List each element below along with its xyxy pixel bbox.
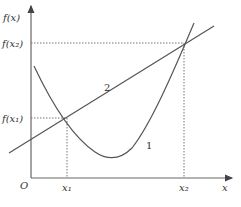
curve-2-label: 2 [104, 82, 110, 93]
y-tick-fx2: f(x₂) [1, 38, 23, 49]
x-axis-label: x [222, 182, 228, 193]
function-diagram: f(x) f(x₂) f(x₁) O x₁ x₂ x 2 1 [0, 0, 241, 207]
line-2 [9, 26, 214, 153]
curve-1-label: 1 [146, 140, 152, 151]
origin-label: O [20, 180, 28, 191]
x-tick-x2: x₂ [179, 182, 189, 193]
y-axis-label: f(x) [2, 12, 20, 23]
x-tick-x1: x₁ [62, 182, 72, 193]
y-tick-fx1: f(x₁) [1, 113, 23, 124]
